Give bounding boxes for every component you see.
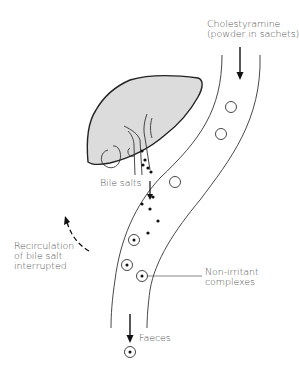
complexes-label-line2: complexes xyxy=(205,277,255,287)
complex-icon xyxy=(125,347,136,358)
particle-icon xyxy=(170,177,181,188)
particle-icon xyxy=(226,102,237,113)
bile-salt-dots-intestine xyxy=(140,195,159,234)
complex-icon xyxy=(122,260,133,271)
liver xyxy=(87,76,202,175)
cholestyramine-arrow xyxy=(237,47,244,80)
faeces-arrow xyxy=(127,314,134,343)
faeces-label: Faeces xyxy=(139,333,171,343)
bile-salts-label: Bile salts xyxy=(100,178,141,188)
complex-icon xyxy=(137,271,148,282)
complex-icon xyxy=(129,235,140,246)
cholestyramine-diagram xyxy=(0,0,299,371)
bile-salt-dots-duct xyxy=(140,149,152,173)
cholestyramine-label-line2: (powder in sachets) xyxy=(207,29,299,39)
particle-icon xyxy=(216,129,227,140)
recirculation-label-line3: interrupted xyxy=(14,261,67,271)
